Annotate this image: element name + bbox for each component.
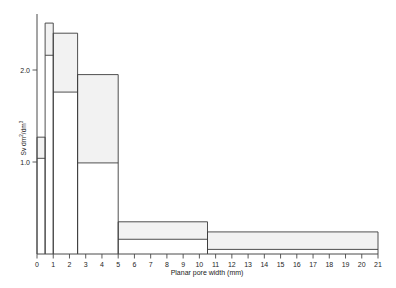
x-tick-label: 9: [181, 261, 185, 268]
x-axis-ticks: [37, 254, 378, 259]
bar-band: [118, 222, 207, 239]
bar-band: [37, 137, 45, 158]
x-tick-label: 20: [358, 261, 366, 268]
x-axis-title: Planar pore width (mm): [171, 269, 244, 277]
x-tick-label: 4: [100, 261, 104, 268]
x-tick-label: 15: [277, 261, 285, 268]
x-tick-label: 19: [342, 261, 350, 268]
x-tick-label: 14: [260, 261, 268, 268]
x-tick-label: 2: [68, 261, 72, 268]
bar-band: [208, 232, 379, 249]
x-tick-label: 10: [195, 261, 203, 268]
x-tick-label: 18: [325, 261, 333, 268]
x-tick-label: 12: [228, 261, 236, 268]
x-tick-label: 17: [309, 261, 317, 268]
x-tick-label: 8: [165, 261, 169, 268]
svg-text:Sv dm2/dm3: Sv dm2/dm3: [19, 120, 27, 155]
y-tick-label: 2.0: [20, 67, 30, 74]
x-tick-label: 0: [35, 261, 39, 268]
bar-band: [45, 23, 53, 55]
x-tick-labels: 0123456789101112131415161718192021: [35, 261, 382, 268]
x-tick-label: 3: [84, 261, 88, 268]
y-axis-title: Sv dm2/dm3: [19, 120, 27, 155]
x-tick-label: 5: [116, 261, 120, 268]
y-axis-ticks: [33, 70, 38, 162]
x-tick-label: 11: [212, 261, 219, 268]
x-tick-label: 7: [149, 261, 153, 268]
bar-band: [78, 75, 119, 163]
chart-figure: 0123456789101112131415161718192021 1.02.…: [0, 0, 396, 288]
bar-bands-layer: [37, 23, 378, 249]
x-tick-label: 21: [374, 261, 382, 268]
x-tick-label: 13: [244, 261, 252, 268]
x-tick-label: 6: [132, 261, 136, 268]
bar-band: [53, 33, 77, 92]
x-tick-label: 1: [51, 261, 55, 268]
histogram-plot: 0123456789101112131415161718192021 1.02.…: [0, 0, 396, 288]
x-tick-label: 16: [293, 261, 301, 268]
y-tick-label: 1.0: [20, 159, 30, 166]
